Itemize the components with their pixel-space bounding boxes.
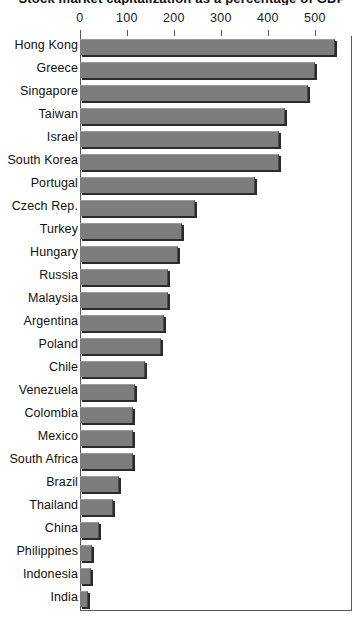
bar-category-label: Turkey <box>0 222 78 236</box>
x-tick-mark <box>80 30 81 36</box>
bar-category-label: Russia <box>0 268 78 282</box>
bar-row: South Korea <box>0 151 364 174</box>
bar-category-label: Indonesia <box>0 567 78 581</box>
bar-category-label: Portugal <box>0 176 78 190</box>
bar <box>80 315 164 331</box>
bar-category-label: Poland <box>0 337 78 351</box>
bar <box>80 85 308 101</box>
bar-category-label: India <box>0 590 78 604</box>
bar-category-label: Philippines <box>0 544 78 558</box>
bar <box>80 545 92 561</box>
bar-row: Malaysia <box>0 289 364 312</box>
bar-row: Greece <box>0 59 364 82</box>
bar-category-label: Colombia <box>0 406 78 420</box>
bar-row: India <box>0 588 364 611</box>
bar <box>80 591 88 607</box>
x-tick-mark <box>221 30 222 36</box>
x-tick-label: 300 <box>210 11 232 25</box>
bar <box>80 361 145 377</box>
bar-row: Hungary <box>0 243 364 266</box>
bar <box>80 62 315 78</box>
bar <box>80 522 99 538</box>
bar-chart: Stock market capitalization as a percent… <box>0 0 364 623</box>
bar <box>80 269 168 285</box>
chart-title: Stock market capitalization as a percent… <box>0 0 364 5</box>
bar-row: Israel <box>0 128 364 151</box>
bars-layer: Hong KongGreeceSingaporeTaiwanIsraelSout… <box>0 36 364 611</box>
bar-row: Taiwan <box>0 105 364 128</box>
bar <box>80 223 182 239</box>
bar-category-label: Venezuela <box>0 383 78 397</box>
bar <box>80 338 161 354</box>
bar-category-label: Hungary <box>0 245 78 259</box>
bar-category-label: China <box>0 521 78 535</box>
bar <box>80 384 135 400</box>
bar-row: Venezuela <box>0 381 364 404</box>
bar-row: Argentina <box>0 312 364 335</box>
bar-category-label: Malaysia <box>0 291 78 305</box>
bar <box>80 154 279 170</box>
bar-row: Portugal <box>0 174 364 197</box>
bar-category-label: Czech Rep. <box>0 199 78 213</box>
bar <box>80 407 133 423</box>
x-tick-mark <box>315 30 316 36</box>
bar-category-label: Greece <box>0 61 78 75</box>
bar-row: South Africa <box>0 450 364 473</box>
bar-category-label: Argentina <box>0 314 78 328</box>
bar-row: China <box>0 519 364 542</box>
x-tick-label: 400 <box>257 11 279 25</box>
bar <box>80 476 119 492</box>
bar-row: Poland <box>0 335 364 358</box>
bar-row: Philippines <box>0 542 364 565</box>
bar-category-label: Hong Kong <box>0 38 78 52</box>
bar-row: Brazil <box>0 473 364 496</box>
bar-row: Thailand <box>0 496 364 519</box>
bar-category-label: Taiwan <box>0 107 78 121</box>
bar-row: Russia <box>0 266 364 289</box>
bar-row: Turkey <box>0 220 364 243</box>
bar-category-label: South Africa <box>0 452 78 466</box>
x-tick-mark <box>268 30 269 36</box>
bar-category-label: Mexico <box>0 429 78 443</box>
bar <box>80 246 178 262</box>
bar <box>80 430 133 446</box>
x-tick-label: 200 <box>163 11 185 25</box>
bar-category-label: Singapore <box>0 84 78 98</box>
bar-row: Hong Kong <box>0 36 364 59</box>
bar-category-label: Chile <box>0 360 78 374</box>
bar <box>80 200 195 216</box>
x-tick-mark <box>174 30 175 36</box>
bar-row: Chile <box>0 358 364 381</box>
x-tick-label: 0 <box>76 11 83 25</box>
bar <box>80 177 255 193</box>
x-tick-label: 500 <box>304 11 326 25</box>
bar-row: Colombia <box>0 404 364 427</box>
bar <box>80 108 285 124</box>
bar-row: Singapore <box>0 82 364 105</box>
bar <box>80 568 91 584</box>
bar-category-label: Brazil <box>0 475 78 489</box>
x-tick-label: 100 <box>116 11 138 25</box>
bar <box>80 131 279 147</box>
bar-row: Czech Rep. <box>0 197 364 220</box>
bar-category-label: Israel <box>0 130 78 144</box>
bar-row: Indonesia <box>0 565 364 588</box>
x-tick-mark <box>127 30 128 36</box>
bar <box>80 453 133 469</box>
bar <box>80 499 113 515</box>
bar-category-label: South Korea <box>0 153 78 167</box>
bar <box>80 292 168 308</box>
x-axis-tick-labels: 0100200300400500 <box>0 11 364 27</box>
bar <box>80 39 335 55</box>
bar-category-label: Thailand <box>0 498 78 512</box>
bar-row: Mexico <box>0 427 364 450</box>
